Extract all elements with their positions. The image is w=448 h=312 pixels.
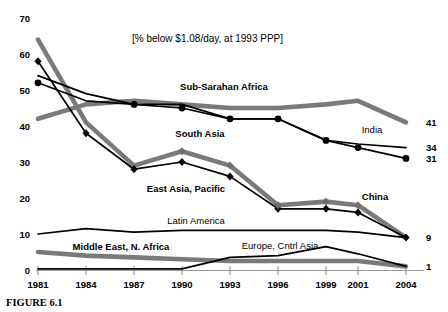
y-tick-20: 20	[19, 193, 30, 204]
figure-caption: FIGURE 6.1	[6, 297, 63, 308]
series-label-south-asia: South Asia	[175, 128, 225, 139]
series-label-latin-america: Latin America	[167, 215, 225, 226]
end-label-south-asia: 31	[426, 153, 437, 164]
y-tick-60: 60	[19, 49, 30, 60]
chart-title: [% below $1.08/day, at 1993 PPP]	[132, 33, 283, 44]
x-tick-1996: 1996	[267, 279, 288, 290]
series-label-europe-cntrl-asia: Europe, Cntrl Asia	[242, 240, 319, 251]
y-tick-40: 40	[19, 121, 30, 132]
x-tick-1990: 1990	[171, 279, 192, 290]
x-tick-2004: 2004	[395, 279, 417, 290]
y-tick-50: 50	[19, 85, 30, 96]
series-label-middle-east-n-africa: Middle East, N. Africa	[73, 241, 170, 252]
series-label-east-asia-pacific: East Asia, Pacific	[147, 183, 225, 194]
figure-6-1-chart: 70 60 50 40 30 20 10 0 1981 1984 1987 19…	[0, 0, 448, 312]
x-tick-1987: 1987	[123, 279, 144, 290]
series-line-latin-america	[38, 229, 406, 238]
y-tick-30: 30	[19, 157, 30, 168]
end-label-europe: 1	[426, 261, 432, 272]
x-tick-1999: 1999	[315, 279, 336, 290]
end-label-india: 34	[426, 142, 437, 153]
series-label-sub-saharan-africa: Sub-Sarahan Africa	[180, 81, 269, 92]
end-label-sub-saharan-africa: 41	[426, 117, 437, 128]
series-label-china: China	[362, 191, 389, 202]
x-tick-1984: 1984	[75, 279, 97, 290]
x-tick-2001: 2001	[347, 279, 369, 290]
series-line-sub-saharan-africa	[38, 101, 406, 123]
series-line-south-asia	[38, 83, 406, 159]
x-tick-1993: 1993	[219, 279, 240, 290]
y-tick-70: 70	[19, 13, 30, 24]
x-tick-1981: 1981	[27, 279, 49, 290]
series-label-india: India	[362, 124, 383, 135]
y-tick-10: 10	[19, 229, 30, 240]
end-label-china: 9	[426, 232, 431, 243]
y-tick-0: 0	[25, 265, 30, 276]
